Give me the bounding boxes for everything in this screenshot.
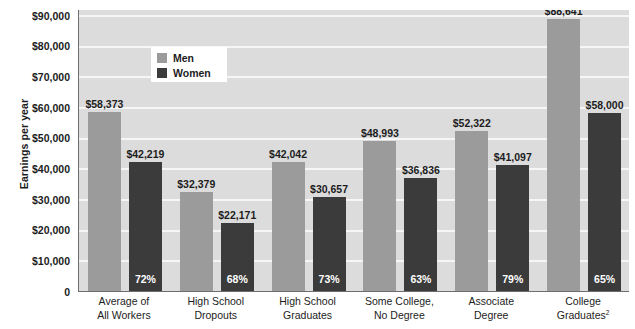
y-axis-tick-label: 0 xyxy=(0,287,70,298)
legend-swatch-icon xyxy=(157,68,167,78)
bar-value-label: $88,641 xyxy=(545,10,583,17)
bar-value-label: $52,322 xyxy=(453,117,491,129)
y-axis-tick-label: $10,000 xyxy=(0,256,70,267)
x-axis-category-label: AssociateDegree xyxy=(445,295,537,322)
y-axis-tick-label: $40,000 xyxy=(0,164,70,175)
bar-group: $52,322$41,09779% xyxy=(455,10,529,291)
bar-women[interactable]: $42,21972% xyxy=(129,162,162,291)
bar-ratio-label: 68% xyxy=(227,273,248,285)
bar-men[interactable]: $52,322 xyxy=(455,131,488,291)
x-axis-category-line: Graduates2 xyxy=(537,309,629,323)
y-axis-tick-label: $30,000 xyxy=(0,195,70,206)
y-axis-tick-label: $50,000 xyxy=(0,133,70,144)
bar-ratio-label: 79% xyxy=(502,273,523,285)
bar-ratio-label: 65% xyxy=(594,273,615,285)
y-axis-tick-label: $80,000 xyxy=(0,41,70,52)
bar-value-label: $30,657 xyxy=(310,183,348,195)
x-axis-category-line: High School xyxy=(262,295,354,309)
bar-women[interactable]: $30,65773% xyxy=(313,197,346,291)
bar-men[interactable]: $48,993 xyxy=(363,141,396,291)
bar-women[interactable]: $41,09779% xyxy=(496,165,529,291)
bar-men[interactable]: $32,379 xyxy=(180,192,213,291)
bar-women[interactable]: $22,17168% xyxy=(221,223,254,291)
y-axis-tick-labels: 0$10,000$20,000$30,000$40,000$50,000$60,… xyxy=(0,0,74,329)
bar-women[interactable]: $36,83663% xyxy=(404,178,437,291)
x-axis-category-line: Some College, xyxy=(354,295,446,309)
bar-value-label: $58,373 xyxy=(85,98,123,110)
legend-swatch-icon xyxy=(157,53,167,63)
x-axis-category-labels: Average ofAll WorkersHigh SchoolDropouts… xyxy=(78,295,629,329)
legend: MenWomen xyxy=(151,47,227,82)
bar-value-label: $41,097 xyxy=(494,151,532,163)
bar-group: $42,042$30,65773% xyxy=(272,10,346,291)
x-axis-category-label: Average ofAll Workers xyxy=(78,295,170,322)
bar-value-label: $58,000 xyxy=(586,99,624,111)
x-axis-category-line: High School xyxy=(170,295,262,309)
x-axis-category-label: High SchoolDropouts xyxy=(170,295,262,322)
x-axis-category-line: Dropouts xyxy=(170,309,262,323)
x-axis-category-label: High SchoolGraduates xyxy=(262,295,354,322)
bar-value-label: $32,379 xyxy=(177,178,215,190)
x-axis-category-line: Associate xyxy=(445,295,537,309)
x-axis-category-line: Degree xyxy=(445,309,537,323)
x-axis-category-label: Some College,No Degree xyxy=(354,295,446,322)
bar-group: $88,641$58,00065% xyxy=(547,10,621,291)
x-axis-category-line: All Workers xyxy=(78,309,170,323)
legend-item[interactable]: Men xyxy=(157,51,222,64)
bar-men[interactable]: $42,042 xyxy=(272,162,305,291)
y-axis-tick-label: $70,000 xyxy=(0,72,70,83)
legend-item[interactable]: Women xyxy=(157,66,222,79)
bar-ratio-label: 73% xyxy=(319,273,340,285)
x-axis-category-label: CollegeGraduates2 xyxy=(537,295,629,322)
x-axis-category-line: College xyxy=(537,295,629,309)
x-axis-category-line: No Degree xyxy=(354,309,446,323)
legend-label: Women xyxy=(173,67,211,79)
bar-men[interactable]: $58,373 xyxy=(88,112,121,291)
earnings-by-education-bar-chart: Earnings per year 0$10,000$20,000$30,000… xyxy=(0,0,635,329)
footnote-marker: 2 xyxy=(606,308,610,315)
bar-value-label: $48,993 xyxy=(361,127,399,139)
y-axis-tick-label: $90,000 xyxy=(0,11,70,22)
bar-value-label: $42,219 xyxy=(126,148,164,160)
bar-value-label: $42,042 xyxy=(269,148,307,160)
y-axis-tick-label: $60,000 xyxy=(0,103,70,114)
y-axis-tick-label: $20,000 xyxy=(0,225,70,236)
bar-group: $48,993$36,83663% xyxy=(363,10,437,291)
x-axis-category-line: Average of xyxy=(78,295,170,309)
bar-men[interactable]: $88,641 xyxy=(547,19,580,291)
bar-women[interactable]: $58,00065% xyxy=(588,113,621,291)
bar-ratio-label: 63% xyxy=(410,273,431,285)
bar-value-label: $36,836 xyxy=(402,164,440,176)
bar-ratio-label: 72% xyxy=(135,273,156,285)
bar-value-label: $22,171 xyxy=(218,209,256,221)
x-axis-category-line: Graduates xyxy=(262,309,354,323)
legend-label: Men xyxy=(173,52,194,64)
